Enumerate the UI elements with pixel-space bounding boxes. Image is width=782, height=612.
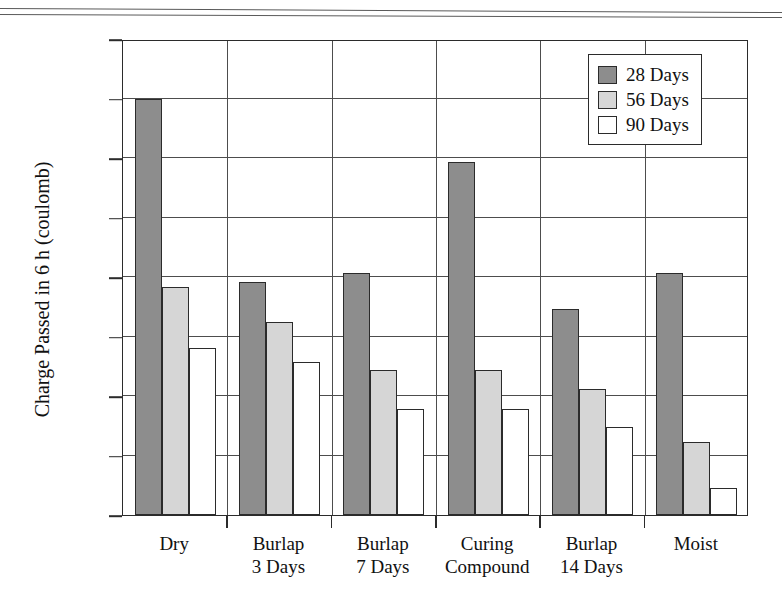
x-tick-mark bbox=[226, 515, 228, 528]
bar bbox=[502, 409, 529, 515]
y-tick-mark bbox=[109, 515, 122, 517]
x-tick-mark bbox=[435, 515, 437, 528]
legend-swatch-icon bbox=[598, 91, 617, 109]
bar bbox=[397, 409, 424, 515]
legend-item-label: 56 Days bbox=[626, 90, 689, 109]
bar bbox=[239, 282, 266, 515]
gridline-horizontal bbox=[123, 217, 747, 218]
bar bbox=[343, 273, 370, 515]
y-axis: 05001000150020002500300035004000 bbox=[0, 0, 122, 612]
bar bbox=[135, 99, 162, 516]
bar bbox=[162, 287, 189, 515]
y-tick-mark bbox=[109, 396, 122, 398]
x-category-label: Burlap 14 Days bbox=[539, 532, 643, 578]
gridline-vertical bbox=[436, 41, 437, 515]
y-tick-mark bbox=[109, 218, 122, 220]
bar bbox=[579, 389, 606, 515]
chart-figure: 05001000150020002500300035004000 Charge … bbox=[0, 0, 782, 612]
chart-legend: 28 Days56 Days90 Days bbox=[588, 54, 702, 145]
gridline-horizontal bbox=[123, 157, 747, 158]
y-tick-mark bbox=[109, 456, 122, 458]
gridline-horizontal bbox=[123, 276, 747, 277]
bar bbox=[606, 427, 633, 515]
x-tick-mark bbox=[331, 515, 333, 528]
gridline-horizontal bbox=[123, 455, 747, 456]
x-category-label: Dry bbox=[122, 532, 226, 555]
x-category-label: Curing Compound bbox=[435, 532, 539, 578]
bar bbox=[656, 273, 683, 515]
legend-swatch-icon bbox=[598, 116, 617, 134]
bar bbox=[448, 162, 475, 515]
gridline-vertical bbox=[227, 41, 228, 515]
x-tick-mark bbox=[644, 515, 646, 528]
y-tick-mark bbox=[109, 337, 122, 339]
x-category-label: Moist bbox=[644, 532, 748, 555]
bar bbox=[189, 348, 216, 515]
y-tick-mark bbox=[109, 277, 122, 279]
gridline-vertical bbox=[540, 41, 541, 515]
gridline-horizontal bbox=[123, 336, 747, 337]
y-tick-mark bbox=[109, 158, 122, 160]
x-category-label: Burlap 3 Days bbox=[226, 532, 330, 578]
y-axis-title: Charge Passed in 6 h (coulomb) bbox=[31, 80, 54, 500]
bar bbox=[710, 488, 737, 515]
y-tick-mark bbox=[109, 39, 122, 41]
legend-item: 90 Days bbox=[598, 112, 689, 137]
bar bbox=[475, 370, 502, 515]
bar bbox=[266, 322, 293, 515]
bar bbox=[552, 309, 579, 515]
gridline-horizontal bbox=[123, 395, 747, 396]
y-tick-mark bbox=[109, 99, 122, 101]
legend-item: 28 Days bbox=[598, 62, 689, 87]
legend-item-label: 90 Days bbox=[626, 115, 689, 134]
bar bbox=[683, 442, 710, 515]
legend-swatch-icon bbox=[598, 66, 617, 84]
bar bbox=[370, 370, 397, 515]
x-tick-mark bbox=[539, 515, 541, 528]
x-category-label: Burlap 7 Days bbox=[331, 532, 435, 578]
bar bbox=[293, 362, 320, 516]
gridline-vertical bbox=[332, 41, 333, 515]
legend-item-label: 28 Days bbox=[626, 65, 689, 84]
legend-item: 56 Days bbox=[598, 87, 689, 112]
